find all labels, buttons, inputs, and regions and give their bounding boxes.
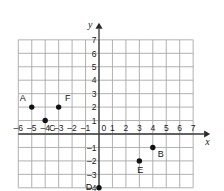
y-axis-arrow-icon [95,23,102,29]
point-marker-a [29,104,34,109]
y-tick-label: 3 [92,89,97,99]
coordinate-plane-svg: –6–5–4–3–2–112345677654321–1–2–3–40 xy A… [0,0,224,191]
point-marker-b [150,145,155,150]
x-tick-label: 2 [124,123,129,133]
point-label-e: E [137,165,143,175]
x-tick-label: 1 [110,123,115,133]
point-marker-e [137,158,142,163]
point-label-c: C [49,123,56,133]
x-tick-label: 4 [150,123,155,133]
point-marker-f [56,104,61,109]
x-tick-label: –1 [81,123,91,133]
y-tick-label: 6 [92,49,97,59]
point-marker-c [43,118,48,123]
point-label-a: A [20,93,26,103]
grid-lines [18,40,193,188]
x-tick-label: 6 [177,123,182,133]
point-label-d: D [86,182,93,191]
x-tick-label: –6 [14,123,24,133]
y-tick-label: –3 [87,170,97,180]
x-tick-label: 7 [191,123,196,133]
coordinate-plane-figure: –6–5–4–3–2–112345677654321–1–2–3–40 xy A… [0,0,224,191]
point-label-f: F [65,93,71,103]
y-tick-label: 1 [92,116,97,126]
y-tick-label: 7 [92,35,97,45]
axes [18,23,210,188]
origin-label: 0 [102,123,107,133]
tick-labels: –6–5–4–3–2–112345677654321–1–2–3–40 [14,35,196,191]
y-tick-label: –2 [87,156,97,166]
point-label-b: B [158,149,164,159]
y-tick-label: –1 [87,143,97,153]
x-tick-label: –5 [27,123,37,133]
x-tick-label: 3 [137,123,142,133]
point-marker-d [96,185,101,190]
x-axis-label: x [204,136,210,147]
x-tick-label: 5 [164,123,169,133]
y-tick-label: 2 [92,102,97,112]
y-tick-label: 4 [92,75,97,85]
y-tick-label: 5 [92,62,97,72]
y-axis-label: y [87,19,93,30]
x-tick-label: –2 [67,123,77,133]
